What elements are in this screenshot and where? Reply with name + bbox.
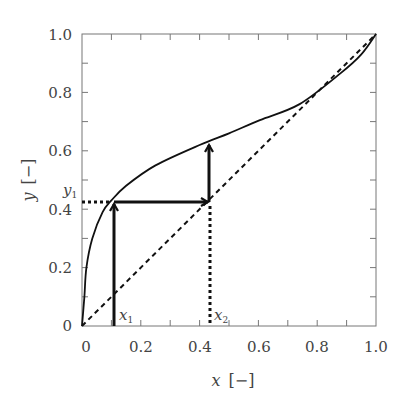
y-tick-label: 0.4 — [48, 201, 72, 219]
x-tick-label: 0.2 — [129, 338, 153, 356]
y-tick-label: 0.2 — [48, 259, 72, 277]
x-tick-label: 0 — [81, 338, 91, 356]
x-tick-label: 0.8 — [305, 338, 329, 356]
diagonal-line — [82, 34, 376, 326]
y1-annotation: y1 — [62, 181, 77, 200]
x-axis-label: x[−] — [212, 371, 255, 390]
y-tick-label: 0.8 — [48, 84, 72, 102]
x2-annotation: x2 — [214, 306, 228, 325]
x-tick-label: 0.6 — [247, 338, 271, 356]
y-tick-label: 0 — [62, 317, 72, 335]
x-tick-label: 1.0 — [364, 338, 388, 356]
mccabe-thiele-chart: 0 0.2 0.4 0.6 0.8 1.0 0 0.2 0.4 0.6 0.8 … — [0, 0, 411, 410]
x-tick-label: 0.4 — [188, 338, 212, 356]
y-axis-label: y[−] — [19, 159, 38, 203]
y-tick-label: 1.0 — [48, 26, 72, 44]
x-tick-labels: 0 0.2 0.4 0.6 0.8 1.0 — [81, 338, 388, 356]
x1-annotation: x1 — [119, 306, 133, 325]
y-tick-label: 0.6 — [48, 142, 72, 160]
